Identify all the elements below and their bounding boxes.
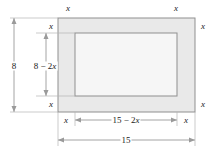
height-inner-arrow-bottom [44, 90, 49, 96]
height-inner-arrow-top [44, 33, 49, 39]
height-outer-arrow-bottom [12, 106, 17, 112]
label-top-right-x: x [174, 4, 178, 13]
label-height-inner-prefix: 8 − 2 [34, 61, 53, 71]
label-right-lower-x: x [201, 100, 205, 109]
label-height-inner: 8 − 2x [33, 62, 58, 71]
label-bottom-left-x: x [64, 116, 68, 125]
label-width-inner-var: x [136, 115, 140, 125]
label-left-upper-x: x [49, 22, 53, 31]
label-width-inner-prefix: 15 − 2 [112, 115, 135, 125]
label-top-left-x: x [66, 4, 70, 13]
label-width-outer: 15 [121, 136, 132, 145]
label-height-outer: 8 [11, 62, 18, 71]
label-width-inner: 15 − 2x [111, 116, 140, 125]
width-inner-arrow-right [171, 118, 177, 123]
geometry-figure: x x x x x x 8 8 − 2x x x 15 − 2x 15 [0, 0, 217, 155]
diagram-canvas [0, 0, 217, 155]
label-bottom-right-x: x [184, 116, 188, 125]
height-outer-arrow-top [12, 18, 17, 24]
label-height-inner-var: x [52, 61, 56, 71]
width-inner-arrow-left [75, 118, 81, 123]
label-left-lower-x: x [49, 100, 53, 109]
inner-rectangle [75, 33, 177, 96]
width-outer-arrow-right [189, 138, 195, 143]
label-right-upper-x: x [201, 22, 205, 31]
width-outer-arrow-left [58, 138, 64, 143]
